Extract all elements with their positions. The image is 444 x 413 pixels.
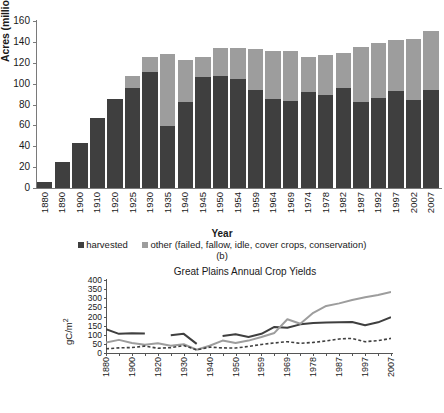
line-chart-y-axis-title: gC/m2	[62, 318, 74, 345]
bar-chart-legend: harvested other (failed, fallow, idle, c…	[0, 239, 444, 250]
bar-segment-other	[160, 54, 175, 126]
line-chart-y-tick-label: 400	[68, 276, 102, 285]
bar-segment-harvested	[90, 118, 105, 188]
bar-segment-other	[371, 43, 386, 98]
bar-chart-y-axis-title: Acres (millions)	[0, 0, 11, 62]
bar-chart-column[interactable]	[106, 21, 124, 188]
line-chart-x-tick-mark	[391, 353, 392, 356]
bar-segment-other	[318, 55, 333, 95]
bar-segment-harvested	[336, 88, 351, 188]
bar-segment-harvested	[423, 90, 438, 188]
bar-chart-column[interactable]	[247, 21, 265, 188]
bar-segment-other	[195, 57, 210, 78]
bar-segment-other	[178, 60, 193, 103]
bar-chart-column[interactable]	[177, 21, 195, 188]
bar-segment-harvested	[213, 76, 228, 188]
bar-chart-y-tick-label: 120	[0, 58, 30, 68]
bar-segment-harvested	[72, 143, 87, 188]
bar-chart-x-axis-line	[36, 188, 442, 189]
bar-chart-y-tick-label: 80	[0, 100, 30, 110]
legend-label-harvested: harvested	[86, 239, 128, 250]
line-series-gray-solid	[106, 292, 391, 350]
line-chart-y-tick-label: 350	[68, 285, 102, 294]
bar-segment-other	[248, 49, 263, 90]
bar-chart-column[interactable]	[264, 21, 282, 188]
line-chart-y-tick-label: 300	[68, 294, 102, 303]
line-chart-y-tick-label: 250	[68, 303, 102, 312]
bar-segment-other	[336, 53, 351, 87]
bar-segment-harvested	[388, 91, 403, 188]
bar-chart-x-axis-title: Year	[0, 228, 444, 239]
legend-label-other: other (failed, fallow, idle, cover crops…	[150, 239, 366, 250]
bar-chart-column[interactable]	[352, 21, 370, 188]
bar-chart-plot-area	[36, 21, 440, 188]
bar-segment-other	[283, 51, 298, 101]
bar-segment-harvested	[318, 95, 333, 188]
bar-segment-other	[213, 48, 228, 76]
bar-chart-y-tick-label: 40	[0, 141, 30, 151]
bar-segment-harvested	[283, 101, 298, 188]
legend-swatch-other-icon	[142, 242, 148, 248]
bar-segment-harvested	[160, 126, 175, 188]
line-chart-plot-area	[106, 280, 391, 353]
bar-chart-figure: Acres (millions) 020406080100120140160 1…	[0, 0, 444, 262]
bar-chart-column[interactable]	[89, 21, 107, 188]
bar-segment-harvested	[107, 99, 122, 188]
bar-segment-harvested	[178, 102, 193, 188]
bar-segment-other	[301, 57, 316, 92]
bar-chart-column[interactable]	[124, 21, 142, 188]
bar-segment-other	[406, 39, 421, 101]
bar-chart-y-tick-label: 20	[0, 162, 30, 172]
bar-segment-harvested	[125, 88, 140, 188]
legend-item-harvested: harvested	[78, 239, 128, 250]
line-chart-title: Great Plains Annual Crop Yields	[80, 266, 410, 277]
bar-segment-harvested	[195, 77, 210, 188]
bar-chart-column[interactable]	[317, 21, 335, 188]
bar-chart-column[interactable]	[387, 21, 405, 188]
bar-segment-other	[230, 48, 245, 79]
bar-chart-column[interactable]	[159, 21, 177, 188]
bar-chart-column[interactable]	[194, 21, 212, 188]
line-series-dark-solid	[223, 317, 391, 337]
bar-chart-column[interactable]	[36, 21, 54, 188]
bar-chart-column[interactable]	[212, 21, 230, 188]
bar-segment-harvested	[230, 79, 245, 188]
legend-item-other: other (failed, fallow, idle, cover crops…	[142, 239, 366, 250]
bar-segment-harvested	[406, 100, 421, 188]
bar-segment-other	[265, 51, 280, 99]
bar-chart-column[interactable]	[229, 21, 247, 188]
bar-chart-y-tick-mark	[33, 188, 36, 189]
bar-chart-column[interactable]	[405, 21, 423, 188]
bar-chart-column[interactable]	[71, 21, 89, 188]
bar-segment-harvested	[248, 90, 263, 188]
bar-chart-column[interactable]	[141, 21, 159, 188]
line-series-dark-solid	[171, 334, 197, 344]
legend-swatch-harvested-icon	[78, 242, 84, 248]
bar-chart-column[interactable]	[54, 21, 72, 188]
bar-chart-column[interactable]	[370, 21, 388, 188]
line-chart-y-tick-label: 0	[68, 349, 102, 358]
bar-chart-y-tick-label: 100	[0, 79, 30, 89]
bar-segment-harvested	[371, 98, 386, 188]
bar-segment-harvested	[142, 72, 157, 188]
bar-chart-subcaption: (b)	[0, 250, 444, 261]
bar-chart-y-tick-label: 0	[0, 183, 30, 193]
line-series-dark-solid	[106, 329, 145, 334]
line-chart-x-axis-line	[106, 353, 393, 354]
bar-segment-harvested	[37, 182, 52, 188]
bar-segment-other	[353, 47, 368, 102]
bar-segment-other	[388, 40, 403, 91]
bar-chart-column[interactable]	[299, 21, 317, 188]
bar-segment-harvested	[353, 102, 368, 188]
bar-segment-harvested	[55, 162, 70, 188]
bar-chart-column[interactable]	[335, 21, 353, 188]
bar-chart-y-tick-label: 160	[0, 16, 30, 26]
bar-chart-y-tick-label: 140	[0, 37, 30, 47]
bar-chart-column[interactable]	[422, 21, 440, 188]
line-chart-x-tick-labels: 1880190019201930194019501959196919781987…	[106, 355, 391, 403]
bar-segment-other	[125, 76, 140, 87]
bar-segment-other	[423, 31, 438, 89]
bar-segment-other	[142, 57, 157, 73]
bar-chart-column[interactable]	[282, 21, 300, 188]
bar-chart-columns	[36, 21, 440, 188]
